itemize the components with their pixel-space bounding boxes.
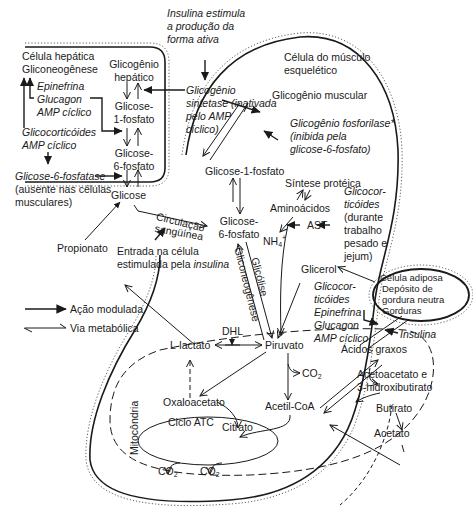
amino-acids-label: Aminoácidos: [270, 202, 330, 215]
ketones-line2: 3-hidroxibutirato: [357, 381, 432, 394]
liver-glucose-label: Glicose: [111, 189, 146, 202]
muscle-g1p-label: Glicose-1-fosfato: [205, 165, 284, 178]
liver-regulator-camp: AMP cíclico: [37, 106, 91, 119]
liver-regulator-epinephrine: Epinefrina: [37, 80, 84, 93]
adipose-cell-title: Célula adiposa: [380, 272, 443, 283]
liver-regulator-glucagon: Glucagon: [37, 93, 82, 106]
insulin-note-line1: Insulina estimula: [167, 7, 245, 20]
liver-g6p-label: Glicose- 6-fosfato: [108, 147, 160, 172]
adipose-line4: Gorduras: [382, 305, 422, 316]
glucocorticoids-work-line4: trabalho: [344, 224, 382, 237]
muscle-pathway-arrows: [125, 100, 408, 505]
entry-label-line2: estimulada pela insulina: [117, 258, 229, 271]
lipolysis-regulator-line3: Epinefrina: [314, 306, 361, 319]
glucocorticoids-work-line5: pesado e: [344, 237, 387, 250]
lactate-label: L-lactato: [170, 339, 210, 352]
insulin-label: Insulina: [400, 328, 436, 341]
phosphorylase-line1: Glicogênio fosforilase*: [290, 117, 394, 130]
fatty-acids-label: Ácidos graxos: [341, 343, 407, 356]
acetate-label: Acetato: [374, 427, 410, 440]
liver-gluconeogenesis-label: Gliconeogênese: [22, 63, 98, 76]
muscle-glycogen-label: Glicogênio muscular: [272, 89, 367, 102]
liver-cell-title: Célula hepática: [22, 50, 94, 63]
dhl-label: DHL: [222, 325, 243, 338]
liver-g1p-label: Glicose- 1-fosfato: [108, 100, 160, 125]
ketones-line1: Acetoacetato e: [357, 368, 427, 381]
mitochondria-label: Mitocôndria: [128, 401, 141, 455]
g6pase-note-line1: (ausente nas células: [15, 183, 111, 196]
insulin-note-line2: a produção da: [167, 20, 234, 33]
muscle-cell-title-line1: Célula do músculo: [284, 51, 370, 64]
phosphorylase-line3: glicose-6-fosfato): [290, 143, 371, 156]
muscle-g6p-label: Glicose- 6-fosfato: [214, 215, 264, 240]
metabolism-diagram: Célula hepática Gliconeogênese Epinefrin…: [0, 0, 473, 529]
adipose-line3: gordura neutra: [382, 294, 444, 305]
ast-label: AST: [307, 219, 327, 232]
synthase-line3: pelo AMP: [186, 110, 231, 123]
liver-glycogen-label: Glicogênio hepático: [105, 58, 163, 83]
butyrate-label: Butirato: [376, 402, 412, 415]
co2-decarboxylation-label: CO2: [302, 367, 322, 384]
legend-modulated-action: Ação modulada: [70, 303, 143, 316]
liver-glucocorticoids-label: Glicocorticóides: [22, 126, 96, 139]
glucocorticoids-work-line1: Glicocor-: [344, 185, 386, 198]
tca-co2-label-2: CO2: [200, 465, 220, 482]
synthase-line2: sintetase (inativada: [186, 97, 276, 110]
glucocorticoids-work-line6: jejum): [344, 250, 373, 263]
adipose-line2: Depósito de: [382, 283, 433, 294]
synthase-line1: Glicogênio: [186, 84, 236, 97]
muscle-cell-title-line2: esquelético: [284, 64, 337, 77]
oxaloacetate-label: Oxaloacetato: [163, 396, 225, 409]
legend-arrows: [24, 309, 66, 332]
liver-camp-label: AMP cíclico: [22, 139, 76, 152]
glycerol-label: Glicerol: [301, 263, 337, 276]
entry-label-line1: Entrada na célula: [117, 245, 199, 258]
lipolysis-regulator-line4: Glucagon: [314, 319, 359, 332]
tca-co2-label-1: CO2: [158, 465, 178, 482]
tca-cycle-label: Ciclo ATC: [168, 416, 214, 429]
pyruvate-label: Piruvato: [265, 339, 304, 352]
phosphorylase-line2: (inibida pela: [290, 130, 347, 143]
lipolysis-regulator-line1: Glicocor-: [314, 280, 356, 293]
g6pase-note-line2: musculares): [15, 196, 72, 209]
synthase-line4: cíclico): [186, 123, 219, 136]
acetyl-coa-label: Acetil-CoA: [265, 400, 315, 413]
insulin-note-line3: forma ativa: [167, 33, 219, 46]
glucocorticoids-work-line3: (durante: [344, 211, 383, 224]
citrate-label: Citrato: [222, 421, 253, 434]
legend-metabolic-pathway: Via metabólica: [70, 322, 139, 335]
g6pase-label: Glicose-6-fosfatase: [15, 170, 105, 183]
ammonium-label: NH4+: [263, 232, 286, 251]
propionate-label: Propionato: [57, 242, 108, 255]
glucocorticoids-work-line2: ticóides: [344, 198, 380, 211]
lipolysis-regulator-line2: ticóides: [314, 293, 350, 306]
